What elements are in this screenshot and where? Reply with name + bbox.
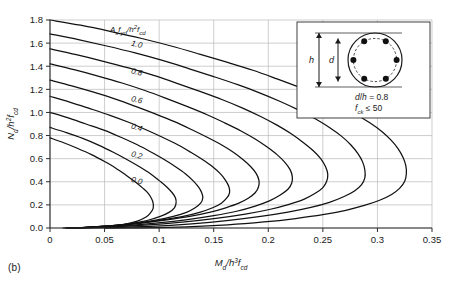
- y-tick-label: 1.4: [30, 61, 43, 72]
- x-tick-label: 0.25: [314, 234, 333, 245]
- x-tick-label: 0.05: [95, 234, 114, 245]
- rebar-bar: [361, 76, 367, 82]
- rebar-bar: [383, 76, 389, 82]
- x-tick-label: 0.1: [153, 234, 166, 245]
- x-axis-title: Md/h3fcd: [215, 257, 248, 271]
- inset-note-ratio: d/h = 0.8: [355, 92, 389, 102]
- x-tick-label: 0: [47, 234, 52, 245]
- interaction-diagram-figure: 0.00.20.40.60.81.01.21.41.61.800.050.10.…: [0, 0, 455, 285]
- x-tick-label: 0.2: [262, 234, 275, 245]
- y-tick-label: 0.8: [30, 130, 43, 141]
- x-tick-label: 0.3: [371, 234, 384, 245]
- y-tick-label: 0.2: [30, 199, 43, 210]
- y-tick-label: 1.8: [30, 14, 43, 25]
- rebar-bar: [361, 38, 367, 44]
- svg-text:Nd/h2fcd: Nd/h2fcd: [5, 108, 19, 140]
- x-tick-label: 0.35: [423, 234, 442, 245]
- y-tick-label: 1.0: [30, 107, 43, 118]
- rebar-bar: [394, 57, 400, 63]
- y-axis-title: Nd/h2fcd: [5, 108, 19, 140]
- y-tick-label: 0.6: [30, 153, 43, 164]
- x-tick-label: 0.15: [204, 234, 223, 245]
- y-tick-label: 0.0: [30, 222, 43, 233]
- column-interaction-chart: 0.00.20.40.60.81.01.21.41.61.800.050.10.…: [0, 0, 455, 285]
- h-dimension-label: h: [309, 55, 314, 65]
- y-tick-label: 1.2: [30, 84, 43, 95]
- figure-caption: (b): [8, 262, 21, 273]
- y-tick-label: 1.6: [30, 38, 43, 49]
- y-tick-label: 0.4: [30, 176, 43, 187]
- cross-section-inset: hdd/h = 0.8fck ≤ 50: [297, 22, 430, 118]
- rebar-bar: [383, 38, 389, 44]
- rebar-bar: [350, 57, 356, 63]
